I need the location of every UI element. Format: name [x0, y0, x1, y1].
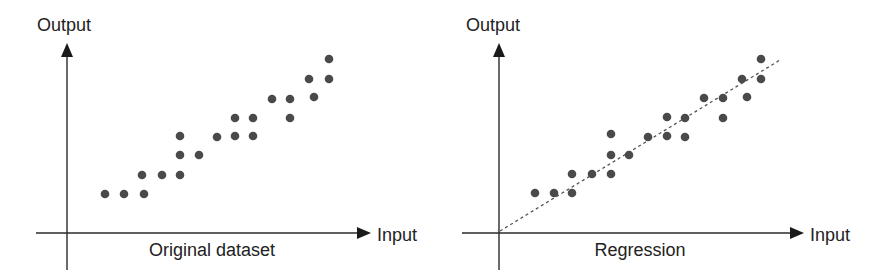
panel-regression: Output Input Regression	[462, 15, 850, 270]
data-point	[700, 94, 709, 103]
y-axis-arrow-icon	[493, 43, 505, 57]
data-point	[663, 113, 672, 122]
data-point	[310, 93, 319, 102]
data-points	[101, 55, 334, 199]
regression-figure: Output Input Original dataset Output Inp…	[0, 0, 885, 278]
data-point	[268, 95, 277, 104]
data-point	[757, 75, 766, 84]
data-point	[607, 170, 616, 179]
data-point	[286, 95, 295, 104]
data-point	[607, 130, 616, 139]
data-point	[305, 75, 314, 84]
data-point	[568, 170, 577, 179]
y-axis-arrow-icon	[61, 43, 73, 57]
data-point	[663, 132, 672, 141]
data-point	[743, 93, 752, 102]
data-point	[738, 75, 747, 84]
x-axis-arrow-icon	[790, 227, 804, 239]
data-point	[568, 189, 577, 198]
data-point	[231, 132, 240, 141]
data-point	[719, 94, 728, 103]
data-point	[719, 114, 728, 123]
data-point	[158, 171, 167, 180]
y-axis-label: Output	[466, 15, 520, 35]
data-point	[607, 151, 616, 160]
data-point	[231, 114, 240, 123]
data-point	[140, 190, 149, 199]
data-point	[286, 114, 295, 123]
x-axis-label: Input	[377, 225, 417, 245]
data-point	[681, 114, 690, 123]
data-point	[588, 170, 597, 179]
data-point	[176, 132, 185, 141]
data-point	[213, 133, 222, 142]
data-point	[138, 171, 147, 180]
data-point	[325, 55, 334, 64]
data-point	[176, 171, 185, 180]
data-point	[757, 55, 766, 64]
data-points	[531, 55, 766, 198]
data-point	[195, 151, 204, 160]
data-point	[120, 190, 129, 199]
x-axis-arrow-icon	[357, 227, 371, 239]
data-point	[681, 133, 690, 142]
data-point	[325, 75, 334, 84]
data-point	[101, 190, 110, 199]
data-point	[550, 189, 559, 198]
panel-original-dataset: Output Input Original dataset	[36, 15, 417, 270]
data-point	[249, 132, 258, 141]
panel-caption: Original dataset	[149, 240, 275, 260]
data-point	[531, 189, 540, 198]
x-axis-label: Input	[810, 225, 850, 245]
data-point	[625, 151, 634, 160]
data-point	[644, 133, 653, 142]
data-point	[249, 114, 258, 123]
data-point	[176, 151, 185, 160]
panel-caption: Regression	[594, 240, 685, 260]
regression-line	[500, 60, 780, 231]
y-axis-label: Output	[37, 15, 91, 35]
